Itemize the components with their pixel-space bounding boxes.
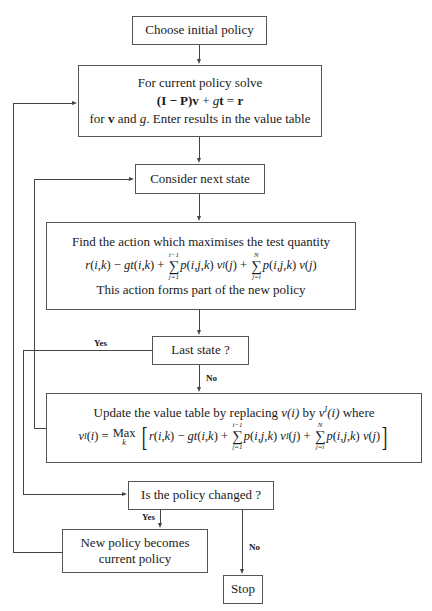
max-operator: Maxk: [113, 427, 136, 448]
connector: [199, 45, 200, 60]
edge-label-yes: Yes: [142, 512, 155, 522]
edge-label-yes: Yes: [94, 338, 107, 348]
arrow-down-icon: [197, 387, 201, 392]
edge-label-no: No: [206, 373, 217, 383]
new-policy-node: New policy becomes current policy: [62, 529, 208, 573]
arrow-down-icon: [197, 59, 201, 64]
arrow-down-icon: [197, 216, 201, 221]
connector: [13, 552, 62, 553]
connector: [23, 494, 123, 495]
right-bracket-icon: ]: [382, 423, 388, 451]
connector: [199, 365, 200, 388]
policy-changed-node: Is the policy changed ?: [128, 481, 274, 510]
sum-icon: N∑j=i: [251, 252, 262, 281]
test-quantity-formula: r(i, k) − gt(i, k) + i−1∑j=1 p(i, j, k) …: [85, 252, 316, 281]
last-state-label: Last state ?: [171, 342, 229, 358]
connector: [199, 194, 200, 217]
new-policy-line1: New policy becomes: [80, 535, 189, 551]
next-state-label: Consider next state: [150, 171, 250, 187]
connector: [34, 428, 46, 429]
solve-node: For current policy solve (I − P)v + gt =…: [78, 65, 322, 137]
connector: [13, 103, 73, 104]
start-label: Choose initial policy: [145, 22, 253, 38]
left-bracket-icon: [: [141, 423, 147, 451]
sum-icon: i−1∑j=1: [232, 422, 243, 451]
new-policy-line2: current policy: [99, 551, 172, 567]
connector: [199, 310, 200, 331]
connector: [34, 179, 35, 428]
find-action-node: Find the action which maximises the test…: [46, 222, 356, 310]
solve-equation: (I − P)v + gt = r: [157, 93, 243, 109]
solve-line1: For current policy solve: [138, 75, 263, 91]
connector: [23, 350, 152, 351]
connector: [242, 510, 243, 570]
arrow-right-icon: [129, 177, 134, 181]
edge-label-no: No: [249, 542, 260, 552]
arrow-down-icon: [197, 158, 201, 163]
sum-icon: N∑j=i: [315, 422, 326, 451]
update-formula: vI(i) = Maxk [ r(i, k) − gt(i, k) + i−1∑…: [78, 422, 389, 451]
find-action-line3: This action forms part of the new policy: [96, 282, 305, 298]
arrow-down-icon: [197, 330, 201, 335]
arrow-down-icon: [158, 523, 162, 528]
stop-label: Stop: [231, 581, 255, 597]
connector: [13, 103, 14, 552]
sum-icon: i−1∑j=1: [169, 252, 180, 281]
last-state-node: Last state ?: [152, 336, 249, 365]
update-node: Update the value table by replacing v(i)…: [46, 393, 422, 463]
arrow-right-icon: [122, 492, 127, 496]
solve-line3: for v and g. Enter results in the value …: [90, 111, 311, 127]
connector: [160, 510, 161, 524]
connector: [199, 137, 200, 159]
connector: [34, 179, 130, 180]
stop-node: Stop: [223, 575, 263, 604]
update-line1: Update the value table by replacing v(i)…: [94, 405, 375, 422]
find-action-line1: Find the action which maximises the test…: [72, 234, 330, 250]
connector: [23, 350, 24, 494]
arrow-right-icon: [72, 101, 77, 105]
policy-changed-label: Is the policy changed ?: [141, 487, 261, 503]
start-node: Choose initial policy: [132, 16, 267, 45]
next-state-node: Consider next state: [135, 164, 265, 194]
arrow-down-icon: [240, 569, 244, 574]
